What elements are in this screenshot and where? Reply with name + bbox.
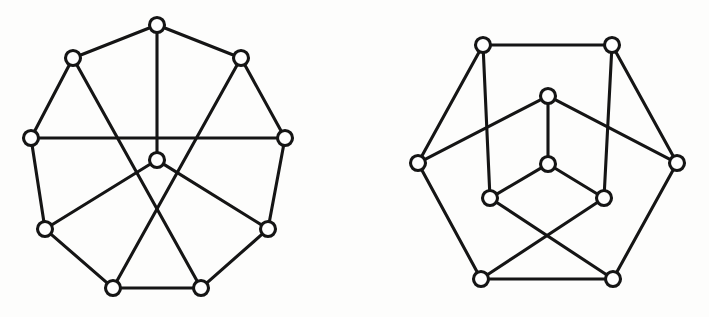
graph-vertex-outer-bottom-right (606, 272, 621, 287)
graph-edge (163, 27, 235, 55)
graph-edge (50, 233, 108, 284)
graph-vertex-inner-center (541, 157, 556, 172)
graph-vertex-bottom-right (194, 281, 209, 296)
graph-edge (421, 169, 478, 274)
graph-vertex-outer-top-right (605, 38, 620, 53)
graph-edge (495, 167, 542, 195)
graph-vertex-outer-top-left (476, 38, 491, 53)
graph-vertex-inner-lower-left (483, 191, 498, 206)
graph-vertex-upper-left (66, 51, 81, 66)
graph-edge (553, 167, 598, 194)
graph-vertex-lower-left (38, 222, 53, 237)
graph-edge (34, 64, 70, 133)
graph-vertex-right (278, 131, 293, 146)
graph-vertex-top (150, 18, 165, 33)
right-graph (411, 38, 685, 287)
graph-vertex-inner-top (541, 89, 556, 104)
graph-vertex-inner-lower-right (597, 191, 612, 206)
graph-edge (554, 99, 672, 160)
graph-edge (616, 169, 674, 274)
graph-edge (162, 163, 262, 225)
graph-edge (424, 99, 543, 160)
graph-vertex-center (150, 153, 165, 168)
graph-edge (244, 64, 282, 133)
graph-edge (615, 51, 674, 158)
left-graph (24, 18, 293, 296)
graph-edge (421, 51, 480, 158)
graph-edge (206, 233, 264, 284)
graph-vertex-outer-left (411, 156, 426, 171)
graph-vertex-outer-right (670, 156, 685, 171)
graph-vertex-left (24, 131, 39, 146)
graph-vertex-bottom-left (106, 281, 121, 296)
graph-vertex-outer-bottom-left (474, 272, 489, 287)
graph-edge (32, 144, 44, 223)
graph-edge (486, 201, 598, 275)
graph-vertex-lower-right (261, 222, 276, 237)
graph-edge (79, 27, 151, 55)
graph-vertex-upper-right (234, 51, 249, 66)
graph-edge (483, 51, 489, 191)
graph-edge (495, 201, 607, 275)
graph-edge (269, 144, 284, 223)
graph-figure-svg (0, 0, 709, 317)
graph-edge (604, 51, 611, 191)
graph-edge (50, 163, 151, 225)
